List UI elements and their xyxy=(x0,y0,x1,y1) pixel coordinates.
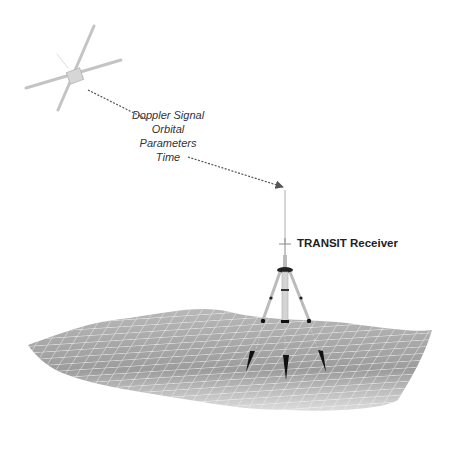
diagram-canvas xyxy=(0,0,453,458)
terrain-surface xyxy=(28,309,432,411)
satellite-icon xyxy=(26,26,121,110)
label-doppler-signal: Doppler Signal xyxy=(122,108,214,122)
label-orbital-parameters: Orbital Parameters xyxy=(122,122,214,150)
signal-labels: Doppler Signal Orbital Parameters Time xyxy=(122,108,214,164)
receiver-label: TRANSIT Receiver xyxy=(297,237,398,249)
label-time: Time xyxy=(122,150,214,164)
